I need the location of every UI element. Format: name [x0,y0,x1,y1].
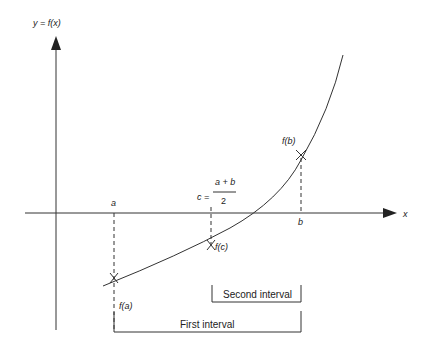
y-axis-label: y = f(x) [32,18,61,28]
fc-cross-marker [207,240,215,250]
x-axis-arrow-icon [383,208,397,218]
fc-label: f(c) [215,242,228,252]
fb-label: f(b) [282,136,296,146]
y-axis-arrow-icon [51,36,61,50]
c-denominator: 2 [221,196,226,206]
c-lhs-label: c = [197,192,209,202]
point-b-label: b [298,217,303,227]
c-numerator: a + b [215,177,235,187]
bisection-diagram: y = f(x) x a f(a) c = a + b 2 f(c) b f(b… [0,0,429,353]
fa-label: f(a) [119,301,133,311]
second-interval-label: Second interval [223,289,292,300]
first-interval-label: First interval [180,319,234,330]
x-axis-label: x [402,209,408,219]
point-a-label: a [111,198,116,208]
